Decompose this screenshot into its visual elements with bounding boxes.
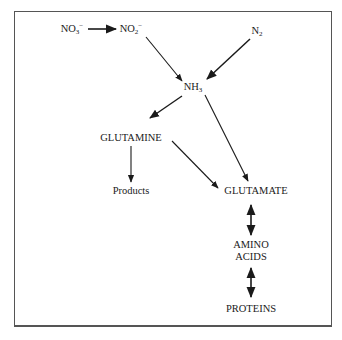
nitrate-base: NO [61,23,76,34]
node-ammonia: NH3 [184,82,203,94]
ammonia-subscript: 3 [199,86,203,94]
node-glutamine: GLUTAMINE [100,133,162,144]
amino-acids-line1: AMINO [233,239,269,251]
node-products: Products [113,186,150,197]
arrow-nitrogen-to-ammonia [207,39,250,79]
node-nitrite: NO2− [120,23,143,36]
nitrite-base: NO [120,23,135,34]
node-nitrate: NO3− [61,23,84,36]
arrow-ammonia-to-glutamine [150,96,182,118]
node-amino-acids: AMINO ACIDS [233,239,269,263]
amino-acids-line2: ACIDS [233,251,269,263]
arrow-glutamine-to-glutamate [172,141,218,188]
arrow-nitrite-to-ammonia [146,37,182,81]
ammonia-base: NH [184,81,199,92]
arrow-ammonia-to-glutamate [205,95,248,181]
arrows-layer [0,0,342,340]
nitrate-charge: − [79,22,83,30]
nitrite-charge: − [138,22,142,30]
node-glutamate: GLUTAMATE [224,186,287,197]
node-nitrogen: N2 [251,26,262,38]
node-proteins: PROTEINS [226,304,276,315]
nitrogen-subscript: 2 [259,30,263,38]
nitrogen-base: N [251,25,259,36]
